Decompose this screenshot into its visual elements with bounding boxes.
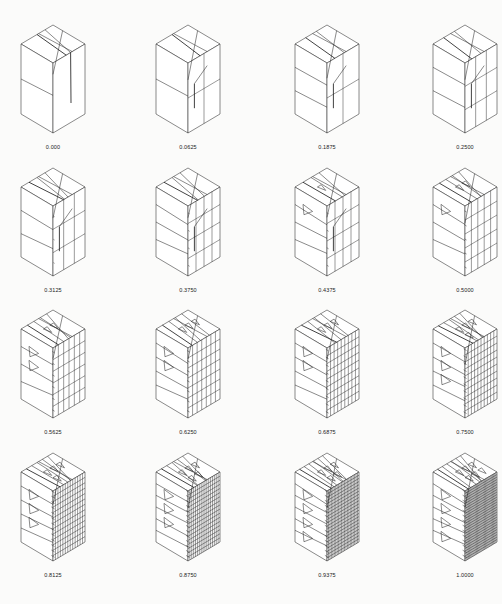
cube-panel-0-7500: 0.7500 — [410, 305, 502, 445]
isometric-cube-drawing — [410, 305, 502, 433]
isometric-cube-drawing — [133, 163, 243, 291]
cube-panel-0-8125: 0.8125 — [0, 448, 108, 588]
panel-label: 0.9375 — [272, 572, 382, 578]
cube-sequence-figure: 0.000 0.0625 0.1875 0.2500 0.3125 0.3750… — [0, 0, 502, 604]
isometric-cube-drawing — [272, 305, 382, 433]
cube-panel-0-0625: 0.0625 — [133, 20, 243, 160]
cube-panel-0-3750: 0.3750 — [133, 163, 243, 303]
isometric-cube-drawing — [133, 20, 243, 148]
cube-panel-0-8750: 0.8750 — [133, 448, 243, 588]
cube-panel-0-6250: 0.6250 — [133, 305, 243, 445]
isometric-cube-drawing — [0, 163, 108, 291]
cube-panel-0-6875: 0.6875 — [272, 305, 382, 445]
isometric-cube-drawing — [410, 20, 502, 148]
isometric-cube-drawing — [133, 305, 243, 433]
panel-label: 1.0000 — [410, 572, 502, 578]
isometric-cube-drawing — [133, 448, 243, 576]
isometric-cube-drawing — [272, 448, 382, 576]
cube-panel-0-5625: 0.5625 — [0, 305, 108, 445]
isometric-cube-drawing — [0, 20, 108, 148]
panel-label: 0.4375 — [272, 287, 382, 293]
isometric-cube-drawing — [410, 448, 502, 576]
panel-label: 0.3125 — [0, 287, 108, 293]
panel-label: 0.8125 — [0, 572, 108, 578]
panel-label: 0.6250 — [133, 429, 243, 435]
cube-panel-0-000: 0.000 — [0, 20, 108, 160]
cube-panel-0-1875: 0.1875 — [272, 20, 382, 160]
panel-label: 0.0625 — [133, 144, 243, 150]
panel-label: 0.1875 — [272, 144, 382, 150]
isometric-cube-drawing — [272, 163, 382, 291]
cube-panel-0-9375: 0.9375 — [272, 448, 382, 588]
panel-label: 0.6875 — [272, 429, 382, 435]
panel-label: 0.3750 — [133, 287, 243, 293]
cube-panel-0-3125: 0.3125 — [0, 163, 108, 303]
isometric-cube-drawing — [272, 20, 382, 148]
isometric-cube-drawing — [410, 163, 502, 291]
cube-panel-1-0000: 1.0000 — [410, 448, 502, 588]
cube-panel-0-5000: 0.5000 — [410, 163, 502, 303]
cube-panel-0-4375: 0.4375 — [272, 163, 382, 303]
panel-label: 0.8750 — [133, 572, 243, 578]
isometric-cube-drawing — [0, 448, 108, 576]
panel-label: 0.5000 — [410, 287, 502, 293]
isometric-cube-drawing — [0, 305, 108, 433]
panel-label: 0.2500 — [410, 144, 502, 150]
cube-panel-0-2500: 0.2500 — [410, 20, 502, 160]
panel-label: 0.7500 — [410, 429, 502, 435]
panel-label: 0.5625 — [0, 429, 108, 435]
panel-label: 0.000 — [0, 144, 108, 150]
